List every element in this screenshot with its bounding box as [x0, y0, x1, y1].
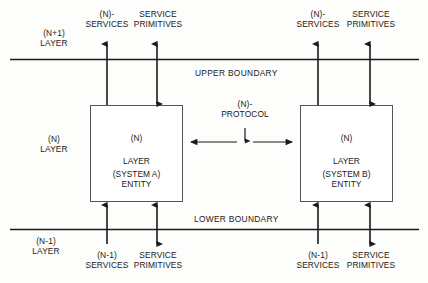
protocol-label: (N)- PROTOCOL — [211, 99, 279, 119]
layer-label-n-minus-1: (N-1) LAYER — [14, 236, 78, 256]
annotation-right-service-primitives-lower: SERVICE PRIMITIVES — [337, 250, 405, 270]
layer-label-n-plus-1: (N+1) LAYER — [22, 28, 86, 48]
entity-text-system-a: (N) LAYER ENTITY — [90, 121, 183, 202]
entity-system-name-b: (SYSTEM B) — [300, 169, 393, 181]
entity-system-name-a: (SYSTEM A) — [90, 169, 183, 181]
entity-a-line2: LAYER — [90, 156, 183, 168]
entity-text-system-b: (N) LAYER ENTITY — [300, 121, 393, 202]
layer-label-n: (N) LAYER — [22, 134, 86, 154]
entity-b-line1: (N) — [300, 133, 393, 145]
entity-a-line3: ENTITY — [90, 179, 183, 191]
lower-boundary-label: LOWER BOUNDARY — [194, 214, 279, 224]
upper-boundary-label: UPPER BOUNDARY — [195, 68, 278, 78]
entity-b-line3: ENTITY — [300, 179, 393, 191]
diagram-canvas: (N+1) LAYER (N) LAYER (N-1) LAYER UPPER … — [0, 0, 428, 283]
entity-b-line2: LAYER — [300, 156, 393, 168]
annotation-left-service-primitives-lower: SERVICE PRIMITIVES — [124, 250, 192, 270]
entity-a-line1: (N) — [90, 133, 183, 145]
annotation-left-service-primitives: SERVICE PRIMITIVES — [124, 9, 192, 29]
annotation-right-service-primitives: SERVICE PRIMITIVES — [337, 9, 405, 29]
